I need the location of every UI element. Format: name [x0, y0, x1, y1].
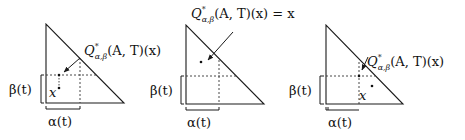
alpha-bracket — [326, 107, 359, 110]
q-label: Q*α,β(A, T)(x) — [367, 53, 444, 72]
alpha-bracket — [46, 106, 80, 109]
alpha-bracket — [186, 107, 219, 110]
x-label: x — [49, 85, 57, 100]
point-x — [200, 61, 203, 64]
alpha-label: α(t) — [187, 115, 211, 130]
beta-label: β(t) — [289, 83, 312, 98]
alpha-label: α(t) — [48, 114, 72, 129]
arrow — [64, 58, 80, 72]
q-label: Q*α,β(A, T)(x) = x — [191, 5, 295, 24]
point-x — [371, 85, 374, 88]
triangle — [46, 24, 124, 103]
point-q — [58, 74, 61, 77]
point-x — [58, 87, 61, 90]
diagram-canvas: x β(t) α(t) Q*α,β(A, T)(x) β(t) α(t) Q*α… — [0, 0, 465, 140]
beta-bracket — [41, 75, 44, 103]
panel-right: x β(t) α(t) Q*α,β(A, T)(x) — [289, 25, 444, 130]
beta-bracket — [320, 76, 324, 104]
alpha-label: α(t) — [328, 115, 352, 130]
beta-label: β(t) — [9, 82, 32, 97]
arrow — [208, 32, 233, 60]
panel-middle: β(t) α(t) Q*α,β(A, T)(x) = x — [150, 5, 295, 130]
triangle — [186, 25, 264, 104]
point-q — [358, 75, 361, 78]
x-label: x — [359, 88, 367, 103]
panel-left: x β(t) α(t) Q*α,β(A, T)(x) — [9, 24, 161, 129]
beta-label: β(t) — [150, 83, 173, 98]
beta-bracket — [181, 76, 184, 104]
q-label: Q*α,β(A, T)(x) — [84, 42, 161, 61]
